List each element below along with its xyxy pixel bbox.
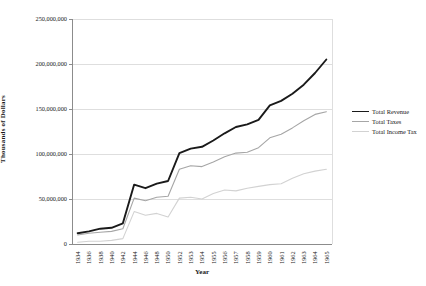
legend-item-total-revenue: Total Revenue xyxy=(352,108,417,115)
x-tick-label: 1936 xyxy=(85,251,92,264)
y-tick-label: 250,000,000 xyxy=(36,15,67,22)
x-tick-label: 1958 xyxy=(244,251,251,264)
x-tick-label: 1960 xyxy=(266,251,273,264)
x-tick-label: 1957 xyxy=(232,251,239,264)
x-tick-label: 1944 xyxy=(131,251,138,264)
x-tick-label: 1962 xyxy=(289,251,296,264)
line-chart-svg: 050,000,000100,000,000150,000,000200,000… xyxy=(0,0,426,286)
legend-item-total-income-tax: Total Income Tax xyxy=(352,128,417,135)
legend-item-total-taxes: Total Taxes xyxy=(352,118,417,125)
chart-canvas: Thousands of Dollars 050,000,000100,000,… xyxy=(0,0,426,286)
x-tick-label: 1959 xyxy=(255,251,262,264)
x-tick-label: 1952 xyxy=(176,251,183,264)
total-revenue-line-icon xyxy=(352,111,369,112)
total-income-tax-line-icon xyxy=(352,131,369,132)
legend: Total Revenue Total Taxes Total Income T… xyxy=(352,108,417,135)
x-axis-title: Year xyxy=(72,268,332,276)
x-tick-label: 1946 xyxy=(142,251,149,264)
y-tick-label: 0 xyxy=(64,240,67,247)
series-line-total-income-tax xyxy=(78,169,327,242)
x-tick-label: 1965 xyxy=(323,251,330,264)
y-tick-label: 50,000,000 xyxy=(39,195,67,202)
y-tick-label: 100,000,000 xyxy=(36,150,67,157)
series-line-total-taxes xyxy=(78,112,327,235)
total-taxes-line-icon xyxy=(352,121,369,122)
legend-label-total-taxes: Total Taxes xyxy=(372,118,401,125)
x-tick-label: 1953 xyxy=(187,251,194,264)
legend-label-total-revenue: Total Revenue xyxy=(372,108,409,115)
x-tick-label: 1942 xyxy=(119,251,126,264)
x-tick-label: 1964 xyxy=(311,251,318,264)
x-tick-label: 1938 xyxy=(97,251,104,264)
y-axis-title: Thousands of Dollars xyxy=(0,74,9,184)
series-line-total-revenue xyxy=(78,60,327,234)
x-tick-label: 1963 xyxy=(300,251,307,264)
x-tick-label: 1948 xyxy=(153,251,160,264)
y-tick-label: 200,000,000 xyxy=(36,60,67,67)
x-tick-label: 1956 xyxy=(221,251,228,264)
legend-label-total-income-tax: Total Income Tax xyxy=(372,128,417,135)
x-tick-label: 1961 xyxy=(278,251,285,264)
x-tick-label: 1950 xyxy=(164,251,171,264)
x-tick-label: 1940 xyxy=(108,251,115,264)
x-tick-label: 1934 xyxy=(74,251,81,264)
y-tick-label: 150,000,000 xyxy=(36,105,67,112)
x-tick-label: 1955 xyxy=(210,251,217,264)
x-tick-label: 1954 xyxy=(198,251,205,264)
